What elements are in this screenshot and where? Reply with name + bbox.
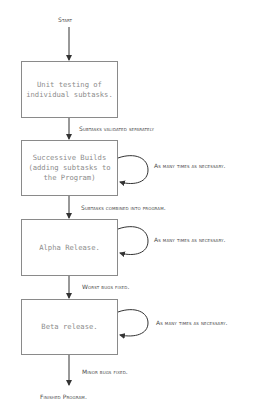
transition-label-worst-bugs: Worst bugs fixed.	[82, 283, 129, 291]
step-text-beta-release: Beta release.	[41, 322, 97, 332]
transition-label-minor-bugs: Minor bugs fixed.	[82, 368, 128, 376]
loop-arrow-beta	[118, 310, 148, 336]
step-text-successive-builds: Successive Builds (adding subtasks to th…	[28, 153, 110, 183]
flowchart-canvas: Start Unit testing of individual subtask…	[0, 0, 269, 412]
step-box-successive-builds: Successive Builds (adding subtasks to th…	[21, 140, 118, 196]
transition-label-validated: Subtasks validated separately	[79, 125, 154, 133]
step-text-unit-testing: Unit testing of individual subtasks.	[26, 80, 113, 100]
loop-label-beta: As many times as necessary.	[156, 319, 228, 327]
loop-label-builds: As many times as necessary.	[154, 162, 226, 170]
start-label: Start	[58, 16, 72, 24]
step-box-beta-release: Beta release.	[21, 299, 118, 355]
step-box-unit-testing: Unit testing of individual subtasks.	[21, 61, 118, 118]
loop-arrow-builds	[118, 156, 148, 184]
loop-arrow-alpha	[118, 227, 148, 255]
loop-label-alpha: As many times as necessary.	[154, 236, 226, 244]
transition-label-combined: Subtasks combined into program.	[81, 204, 166, 212]
end-label: Finished Program.	[40, 393, 87, 401]
step-text-alpha-release: Alpha Release.	[39, 243, 100, 253]
step-box-alpha-release: Alpha Release.	[21, 219, 118, 276]
